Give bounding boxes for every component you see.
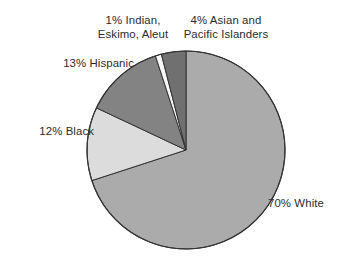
slice-label-white-line1: 70% White [268, 197, 324, 209]
slice-label-hispanic-line1: 13% Hispanic [63, 57, 134, 69]
slice-label-white: 70% White [268, 196, 348, 210]
slice-label-asian-line2: Pacific Islanders [184, 28, 269, 40]
slice-label-indian-line1: 1% Indian, [106, 14, 161, 26]
pie-chart-figure: 1% Indian, Eskimo, Aleut 4% Asian and Pa… [0, 0, 348, 268]
slice-label-black-line1: 12% Black [39, 125, 94, 137]
slice-label-asian: 4% Asian and Pacific Islanders [170, 13, 282, 41]
slice-label-black: 12% Black [2, 124, 94, 138]
pie-slice-group [87, 51, 285, 249]
slice-label-indian-line2: Eskimo, Aleut [98, 28, 168, 40]
slice-label-asian-line1: 4% Asian and [191, 14, 262, 26]
slice-label-hispanic: 13% Hispanic [10, 56, 134, 70]
